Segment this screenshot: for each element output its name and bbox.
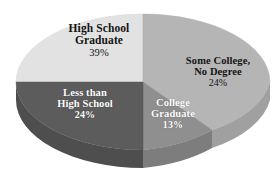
pie-label-percent: 39% — [47, 47, 151, 58]
pie-label-line-2: Graduate — [47, 34, 151, 46]
pie-label-percent: 24% — [36, 110, 134, 121]
pie-label-line-1: Less than — [36, 87, 134, 98]
pie-label-line-1: College — [137, 97, 209, 108]
pie-label-college-graduate: College Graduate 13% — [137, 97, 209, 130]
pie-label-less-than-high-school: Less than High School 24% — [36, 87, 134, 120]
pie-label-line-1: Some College, — [168, 55, 268, 66]
pie-label-percent: 24% — [168, 78, 268, 89]
pie-label-some-college-no-degree: Some College, No Degree 24% — [168, 55, 268, 88]
pie-chart-figure: High School Graduate 39% Some College, N… — [0, 0, 276, 171]
pie-label-line-2: High School — [36, 98, 134, 109]
pie-label-percent: 13% — [137, 120, 209, 131]
pie-label-high-school-graduate: High School Graduate 39% — [47, 22, 151, 58]
pie-label-line-1: High School — [47, 22, 151, 34]
pie-label-line-2: No Degree — [168, 66, 268, 77]
pie-label-line-2: Graduate — [137, 108, 209, 119]
